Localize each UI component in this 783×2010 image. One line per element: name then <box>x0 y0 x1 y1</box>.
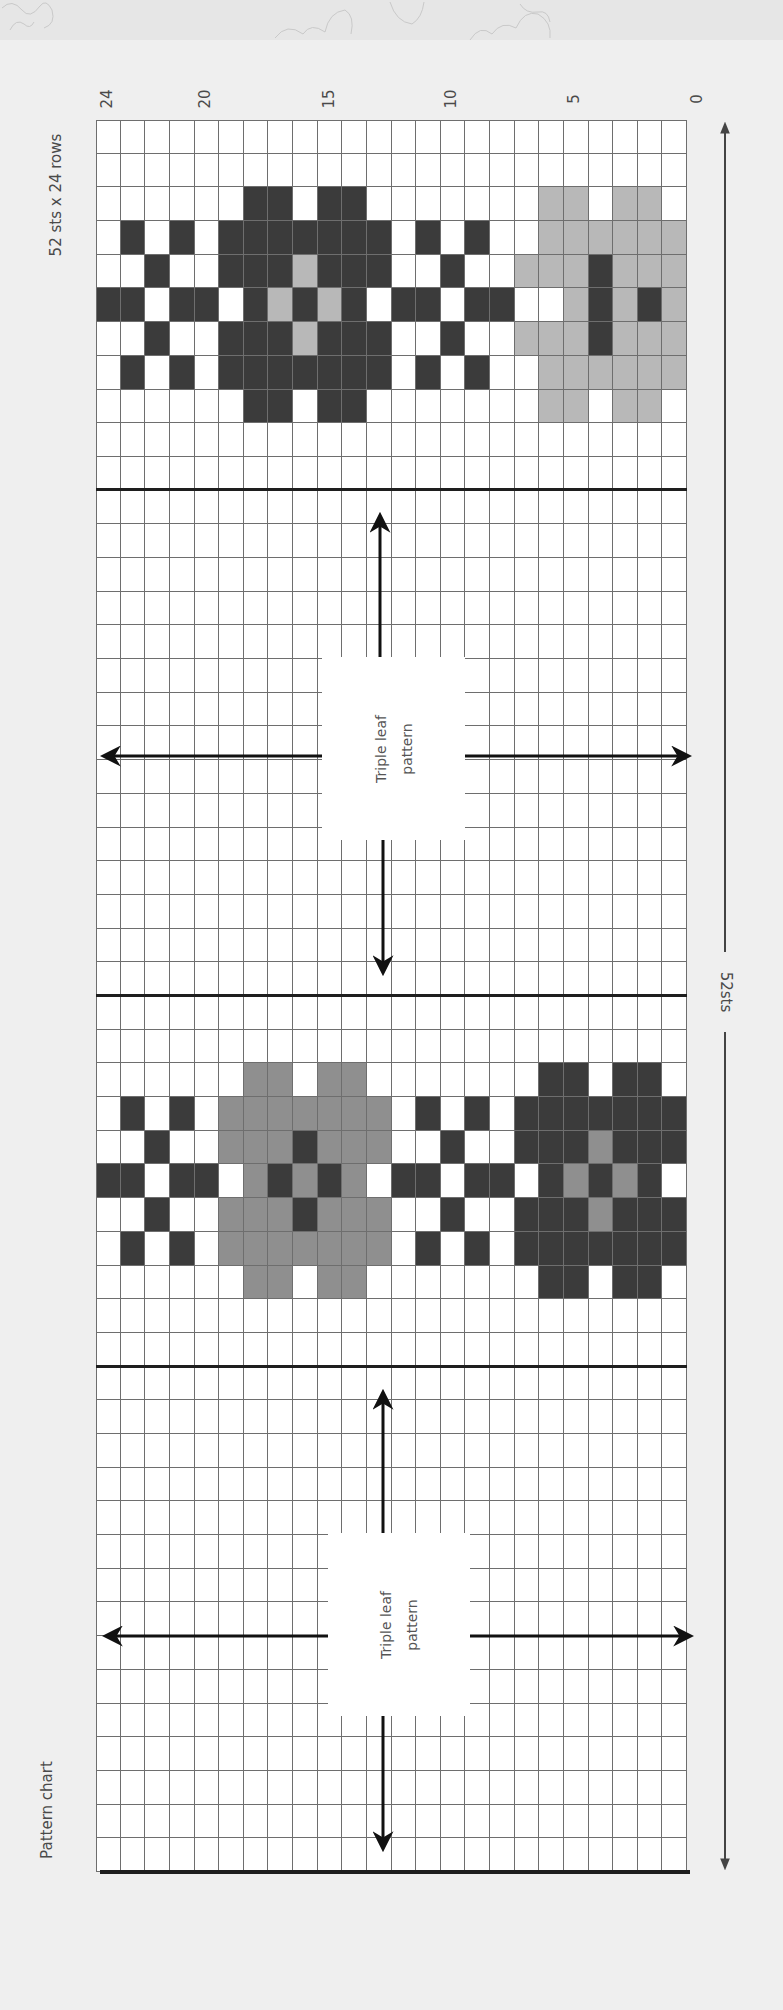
section-label-box: Triple leaf pattern <box>328 1533 470 1716</box>
section-label-line1: Triple leaf <box>368 715 394 783</box>
section-label-line1: Triple leaf <box>373 1591 399 1659</box>
stitch-count-label: 52sts <box>715 964 735 1020</box>
section-label-box: Triple leaf pattern <box>322 657 465 840</box>
section-label-line2: pattern <box>394 715 420 783</box>
section-label-line2: pattern <box>399 1591 425 1659</box>
